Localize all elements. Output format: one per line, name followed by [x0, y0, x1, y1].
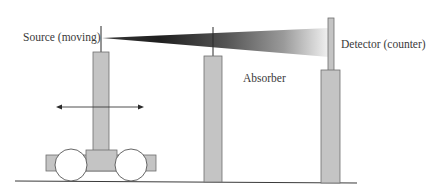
setup-diagram: Source (moving) Absorber Detector (count… [0, 0, 436, 194]
detector-pillar [321, 70, 340, 183]
cart [46, 149, 156, 181]
cart-wheel-right [115, 149, 147, 181]
cart-wheel-left [55, 149, 87, 181]
absorber-pillar [204, 56, 222, 182]
source-label: Source (moving) [23, 31, 101, 44]
absorber-label: Absorber [243, 72, 286, 84]
detector-label: Detector (counter) [341, 38, 426, 51]
radiation-beam [102, 28, 329, 57]
ground-line [15, 181, 357, 183]
detector-assembly: Detector (counter) [321, 18, 426, 183]
detector-counter [328, 18, 334, 71]
source-pillar [93, 52, 109, 155]
source-assembly: Source (moving) [23, 26, 156, 181]
cart-center-block [86, 150, 117, 171]
